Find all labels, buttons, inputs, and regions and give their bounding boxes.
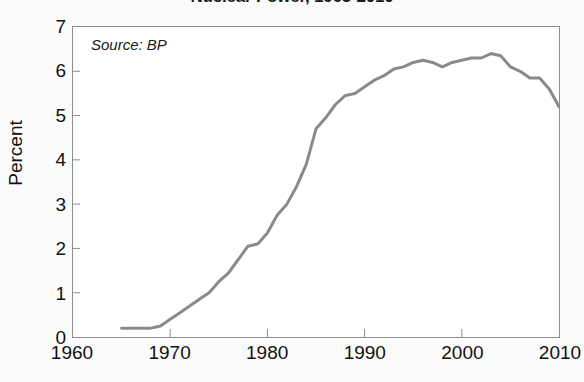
chart-title: Nuclear Power, 1965-2010: [0, 0, 584, 7]
plot-svg: [73, 27, 559, 337]
y-tick-label-5: 5: [42, 106, 66, 125]
y-axis-title: Percent: [5, 93, 27, 213]
x-tick-label-1980: 1980: [222, 342, 312, 364]
chart-figure: Nuclear Power, 1965-2010 7 6 5 4 3 2 1 0…: [0, 0, 584, 382]
y-tick-label-1: 1: [42, 284, 66, 303]
data-series-line: [122, 54, 559, 329]
x-tick-label-2010: 2010: [515, 342, 584, 364]
y-tick-label-4: 4: [42, 150, 66, 169]
x-tick-label-2000: 2000: [417, 342, 507, 364]
y-tick-label-2: 2: [42, 239, 66, 258]
y-axis-tick-labels: 7 6 5 4 3 2 1 0: [38, 0, 66, 382]
x-tick-label-1970: 1970: [125, 342, 215, 364]
y-tick-label-7: 7: [42, 17, 66, 36]
x-tick-label-1990: 1990: [320, 342, 410, 364]
plot-area: Source: BP: [72, 26, 560, 338]
y-tick-label-6: 6: [42, 61, 66, 80]
y-tick-label-3: 3: [42, 195, 66, 214]
y-axis-ticks: [73, 71, 80, 292]
x-axis-tick-labels: 1960 1970 1980 1990 2000 2010: [0, 342, 584, 372]
x-axis-ticks: [170, 329, 462, 337]
x-tick-label-1960: 1960: [27, 342, 117, 364]
